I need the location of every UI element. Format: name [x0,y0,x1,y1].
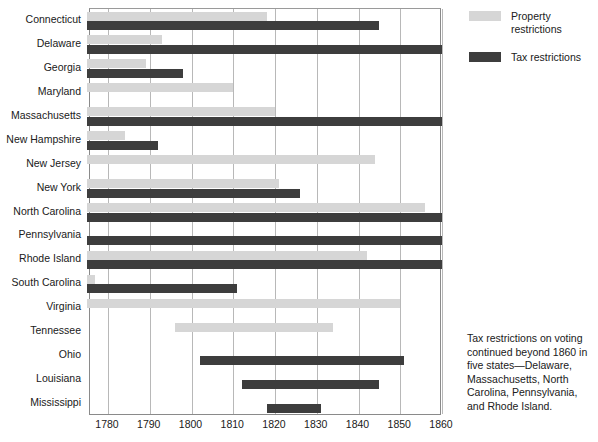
x-tick-label-1800: 1800 [179,418,202,430]
x-tick-label-1810: 1810 [221,418,244,430]
category-label-georgia: Georgia [44,61,81,73]
plot-area [89,8,441,415]
x-tick-label-1840: 1840 [346,418,369,430]
bar-property-rhode-island [87,251,367,260]
bar-property-new-jersey [87,155,375,164]
legend-swatch-icon [469,52,501,62]
bar-tax-louisiana [242,380,380,389]
bar-property-north-carolina [87,203,425,212]
gridline-1860 [442,9,443,414]
category-label-new-jersey: New Jersey [26,157,81,169]
bar-tax-connecticut [87,21,379,30]
legend-swatch-icon [469,11,501,21]
bar-tax-new-hampshire [87,141,158,150]
bar-tax-massachusetts [87,117,442,126]
legend-item-property-restrictions: Property restrictions [469,10,594,35]
category-label-south-carolina: South Carolina [12,276,81,288]
bar-property-new-york [87,179,279,188]
category-axis-labels: ConnecticutDelawareGeorgiaMarylandMassac… [0,8,85,415]
x-tick-label-1790: 1790 [137,418,160,430]
bar-property-new-hampshire [87,131,125,140]
category-label-delaware: Delaware [37,37,81,49]
x-tick-label-1850: 1850 [388,418,411,430]
category-label-connecticut: Connecticut [26,13,81,25]
category-label-north-carolina: North Carolina [13,205,81,217]
bar-property-south-carolina [87,275,95,284]
bar-property-massachusetts [87,107,275,116]
category-label-mississippi: Mississippi [30,396,81,408]
bar-tax-georgia [87,69,183,78]
category-label-massachusetts: Massachusetts [11,109,81,121]
category-label-louisiana: Louisiana [36,372,81,384]
footnote-note: Tax restrictions on voting continued bey… [467,332,595,413]
category-label-maryland: Maryland [38,85,81,97]
legend-label: Property restrictions [511,10,594,35]
bar-tax-north-carolina [87,213,442,222]
bar-tax-new-york [87,189,300,198]
category-label-rhode-island: Rhode Island [19,252,81,264]
legend-item-tax-restrictions: Tax restrictions [469,51,594,64]
legend-label: Tax restrictions [511,51,581,64]
bar-property-delaware [87,35,162,44]
category-label-tennessee: Tennessee [30,324,81,336]
bar-tax-mississippi [267,404,321,413]
category-label-new-york: New York [37,181,81,193]
chart-legend: Property restrictionsTax restrictions [469,10,594,80]
bar-tax-rhode-island [87,260,442,269]
x-tick-label-1780: 1780 [95,418,118,430]
category-label-pennsylvania: Pennsylvania [19,228,81,240]
bar-tax-ohio [200,356,405,365]
bar-tax-pennsylvania [87,236,442,245]
x-tick-label-1860: 1860 [429,418,452,430]
voting-restrictions-chart: ConnecticutDelawareGeorgiaMarylandMassac… [0,0,598,442]
bar-property-tennessee [175,323,334,332]
x-axis: 178017901800181018201830184018501860 [89,416,441,436]
bar-tax-south-carolina [87,284,237,293]
bar-property-virginia [87,299,400,308]
bar-tax-delaware [87,45,442,54]
category-label-ohio: Ohio [59,348,81,360]
bar-property-georgia [87,59,145,68]
category-label-new-hampshire: New Hampshire [6,133,81,145]
bar-property-maryland [87,83,233,92]
x-tick-label-1820: 1820 [262,418,285,430]
category-label-virginia: Virginia [46,300,81,312]
x-tick-label-1830: 1830 [304,418,327,430]
bar-property-connecticut [87,12,267,21]
